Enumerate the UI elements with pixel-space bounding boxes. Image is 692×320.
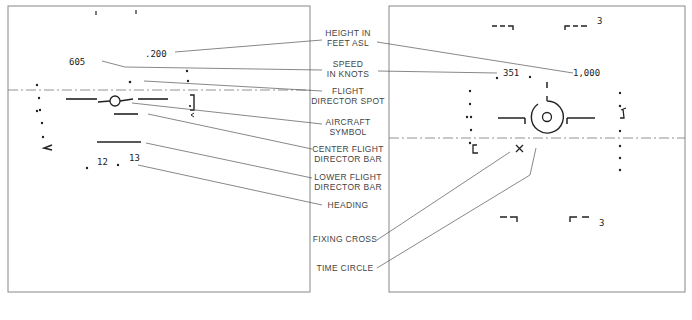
left-scale-bracket <box>190 95 194 110</box>
label-heading: HEADING <box>328 200 369 210</box>
bottom-left-bracket <box>500 217 517 222</box>
left-heading-scale: 12 13 <box>86 153 140 169</box>
right-heading-value: 351 <box>503 68 519 78</box>
label-aircraft: AIRCRAFT <box>326 117 371 127</box>
svg-text:DIRECTOR BAR: DIRECTOR BAR <box>314 182 382 192</box>
svg-text:IN KNOTS: IN KNOTS <box>327 69 370 79</box>
right-height-value: 1,000 <box>573 68 600 78</box>
svg-text:DIRECTOR SPOT: DIRECTOR SPOT <box>311 96 385 106</box>
label-center-bar: CENTER FLIGHT <box>312 144 383 154</box>
svg-text:3: 3 <box>599 218 604 228</box>
right-display-frame <box>389 6 685 292</box>
top-left-bracket <box>492 26 513 30</box>
label-lower-bar: LOWER FLIGHT <box>314 172 381 182</box>
bottom-right-bracket <box>570 217 589 222</box>
callout-labels: HEIGHT IN FEET ASL SPEED IN KNOTS FLIGHT… <box>311 28 385 273</box>
svg-text:12: 12 <box>97 157 108 167</box>
time-circle <box>531 96 563 133</box>
right-aircraft-symbol <box>498 82 595 133</box>
left-height-value: .200 <box>145 49 167 59</box>
label-fixing-cross: FIXING CROSS <box>313 234 378 244</box>
right-left-pitch-scale <box>466 90 472 144</box>
svg-text:DIRECTOR BAR: DIRECTOR BAR <box>314 154 382 164</box>
right-right-pitch-scale <box>619 92 621 171</box>
top-right-bracket <box>565 26 587 30</box>
hud-diagram: .200 605 12 <box>0 0 692 320</box>
svg-text:FEET ASL: FEET ASL <box>327 38 369 48</box>
flight-director-spot <box>129 81 132 84</box>
label-time-circle: TIME CIRCLE <box>316 263 373 273</box>
label-fd-spot: FLIGHT <box>332 86 364 96</box>
aircraft-symbol <box>66 96 168 106</box>
left-pitch-scale <box>36 84 44 138</box>
left-speed-value: 605 <box>69 57 85 67</box>
svg-text:3: 3 <box>597 16 602 26</box>
right-display: 3 351 1,000 <box>466 16 626 228</box>
fixing-cross-icon <box>516 145 523 152</box>
left-chevron-icon <box>44 145 52 150</box>
label-speed: SPEED <box>333 59 363 69</box>
svg-text:SYMBOL: SYMBOL <box>329 127 366 137</box>
svg-text:13: 13 <box>129 153 140 163</box>
label-height: HEIGHT IN <box>325 28 371 38</box>
